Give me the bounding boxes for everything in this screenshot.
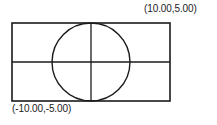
min-corner-coordinate-label: (-10.00,-5.00) xyxy=(12,103,71,115)
max-corner-coordinate-label: (10.00,5.00) xyxy=(144,3,197,15)
figure-canvas: (10.00,5.00) (-10.00,-5.00) xyxy=(0,0,217,125)
